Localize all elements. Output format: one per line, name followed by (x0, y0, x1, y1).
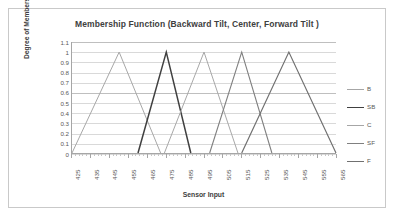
legend-label: B (367, 85, 371, 92)
x-axis-tick-label: 565 (339, 170, 346, 180)
x-axis-minor-tick (207, 154, 208, 156)
x-axis-minor-tick (192, 154, 193, 156)
x-axis-minor-tick (162, 154, 163, 156)
x-axis-tick (147, 154, 148, 158)
x-axis-minor-tick (181, 154, 182, 156)
chart-title: Membership Function (Backward Tilt, Cent… (9, 19, 385, 29)
x-axis-minor-tick (268, 154, 269, 156)
x-axis-minor-tick (158, 154, 159, 156)
y-axis-tick-label: 0.7 (60, 79, 69, 86)
x-axis-minor-tick (188, 154, 189, 156)
x-axis-minor-tick (169, 154, 170, 156)
x-axis-tick (336, 154, 337, 158)
x-axis-tick-label: 425 (74, 170, 81, 180)
x-axis-tick (204, 154, 205, 158)
x-axis-tick-label: 535 (282, 170, 289, 180)
legend-swatch-icon (347, 143, 364, 144)
x-axis-tick-label: 435 (93, 170, 100, 180)
x-axis-minor-tick (82, 154, 83, 156)
x-axis-tick-label: 505 (225, 170, 232, 180)
x-axis-minor-tick (230, 154, 231, 156)
series-line-b (72, 52, 161, 153)
x-axis-minor-tick (94, 154, 95, 156)
x-axis-minor-tick (151, 154, 152, 156)
legend-label: F (367, 157, 371, 164)
x-axis-tick (222, 154, 223, 158)
x-axis-ticks (71, 154, 336, 159)
x-axis-minor-tick (173, 154, 174, 156)
x-axis-minor-tick (215, 154, 216, 156)
x-axis-minor-tick (226, 154, 227, 156)
y-axis-tick-label: 0.3 (60, 120, 69, 127)
x-axis-tick-label: 485 (187, 170, 194, 180)
x-axis-minor-tick (132, 154, 133, 156)
x-axis-minor-tick (245, 154, 246, 156)
x-axis-minor-tick (98, 154, 99, 156)
x-axis-tick-label: 455 (130, 170, 137, 180)
x-axis-tick-label: 465 (149, 170, 156, 180)
y-axis-tick-label: 1.1 (60, 39, 69, 46)
x-axis-minor-tick (328, 154, 329, 156)
legend-swatch-icon (347, 107, 364, 108)
x-axis-minor-tick (272, 154, 273, 156)
x-axis-tick (260, 154, 261, 158)
x-axis-minor-tick (249, 154, 250, 156)
x-axis-tick (109, 154, 110, 158)
x-axis-tick (90, 154, 91, 158)
x-axis-minor-tick (105, 154, 106, 156)
x-axis-minor-tick (177, 154, 178, 156)
x-axis-minor-tick (294, 154, 295, 156)
y-axis-tick-label: 0.9 (60, 59, 69, 66)
x-axis-tick (298, 154, 299, 158)
series-line-c (164, 52, 238, 153)
x-axis-minor-tick (332, 154, 333, 156)
x-axis-minor-tick (113, 154, 114, 156)
legend-swatch-icon (347, 89, 364, 90)
x-axis-minor-tick (264, 154, 265, 156)
x-axis-tick-label: 495 (206, 170, 213, 180)
x-axis-minor-tick (211, 154, 212, 156)
plot-series-svg (72, 42, 336, 153)
x-axis-minor-tick (238, 154, 239, 156)
x-axis-minor-tick (325, 154, 326, 156)
x-axis-minor-tick (75, 154, 76, 156)
y-axis-tick-label: 0.2 (60, 130, 69, 137)
x-axis-minor-tick (124, 154, 125, 156)
y-axis-tick-label: 0.8 (60, 69, 69, 76)
x-axis-minor-tick (79, 154, 80, 156)
x-axis-minor-tick (313, 154, 314, 156)
x-axis-title: Sensor Input (71, 191, 336, 198)
x-axis-minor-tick (200, 154, 201, 156)
legend-swatch-icon (347, 161, 364, 162)
x-axis-minor-tick (321, 154, 322, 156)
x-axis-tick (317, 154, 318, 158)
series-line-sb (138, 52, 191, 153)
series-line-f (242, 52, 336, 153)
x-axis-minor-tick (291, 154, 292, 156)
x-axis-tick-label: 445 (111, 170, 118, 180)
y-axis-title: Degree of Membership (23, 0, 30, 59)
x-axis-tick-label: 525 (263, 170, 270, 180)
legend-swatch-icon (347, 125, 364, 126)
x-axis-minor-tick (143, 154, 144, 156)
x-axis-tick (241, 154, 242, 158)
x-axis-minor-tick (257, 154, 258, 156)
x-axis-tick-label: 515 (244, 170, 251, 180)
x-axis-tick-label: 475 (168, 170, 175, 180)
x-axis-minor-tick (302, 154, 303, 156)
x-axis-minor-tick (196, 154, 197, 156)
x-axis-minor-tick (86, 154, 87, 156)
x-axis-minor-tick (219, 154, 220, 156)
x-axis-minor-tick (101, 154, 102, 156)
series-line-sf (210, 52, 272, 153)
y-axis-tick-label: 0.4 (60, 110, 69, 117)
x-axis-tick (185, 154, 186, 158)
x-axis-tick (128, 154, 129, 158)
x-axis-tick (279, 154, 280, 158)
legend-label: SF (367, 139, 375, 146)
x-axis-minor-tick (275, 154, 276, 156)
x-axis-minor-tick (283, 154, 284, 156)
x-axis-minor-tick (120, 154, 121, 156)
y-axis-tick-label: 1 (66, 49, 69, 56)
x-axis-minor-tick (139, 154, 140, 156)
